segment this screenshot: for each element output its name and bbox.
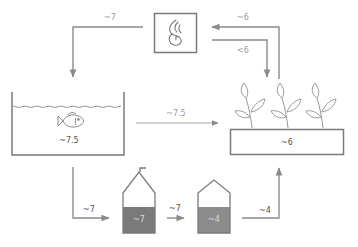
heater-node [155,14,197,53]
edge-label-growbed-to-heater: ~6 [237,13,249,22]
edge-heater-to-fishtank [73,27,143,77]
edge-label-tank2-to-growbed: ~4 [259,206,271,215]
fish-icon [58,113,84,128]
edge-label-fishtank-to-tank1: ~7 [83,205,95,214]
tank2-value: ~4 [208,215,220,224]
edge-label-tank1-to-tank2: ~7 [169,204,181,213]
edge-label-fishtank-to-growbed: ~7.5 [166,109,185,118]
edge-label-heater-to-fishtank: ~7 [104,13,116,22]
grow-bed-value: ~6 [281,138,293,147]
tank2-node [198,180,230,233]
tank1-value: ~7 [133,215,145,224]
water-surface [13,106,121,108]
plants-icon [235,83,336,128]
fish-tank-node [12,92,124,155]
fish-tank-value: ~7.5 [59,136,78,145]
edge-label-heater-to-growbed: <6 [237,46,249,55]
